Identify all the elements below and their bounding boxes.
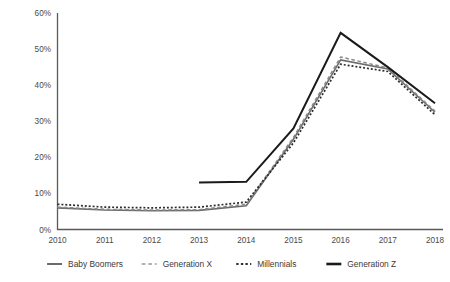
x-tick-label: 2018: [426, 236, 445, 245]
legend-label: Millennials: [257, 259, 296, 269]
x-tick-label: 2011: [96, 236, 114, 245]
series-line: [58, 60, 436, 211]
y-tick-label: 50%: [35, 45, 51, 54]
x-tick-label: 2014: [237, 236, 256, 245]
legend-label: Generation X: [163, 259, 213, 269]
y-tick-label: 40%: [35, 81, 51, 90]
line-chart: 0%10%20%30%40%50%60% 2010201120122013201…: [0, 0, 450, 282]
x-tick-label: 2012: [143, 236, 162, 245]
legend-label: Generation Z: [347, 259, 396, 269]
y-tick-label: 0%: [39, 226, 51, 235]
chart-legend: Baby BoomersGeneration XMillennialsGener…: [47, 259, 396, 269]
y-tick-label: 60%: [35, 9, 51, 18]
x-axis-tick-labels: 201020112012201320142015201620172018: [48, 236, 444, 245]
y-tick-label: 10%: [35, 189, 51, 198]
x-tick-label: 2015: [284, 236, 303, 245]
x-tick-label: 2016: [332, 236, 351, 245]
x-tick-label: 2013: [190, 236, 209, 245]
x-tick-label: 2017: [379, 236, 398, 245]
series-group: [58, 33, 436, 211]
series-line: [199, 33, 435, 183]
series-line: [58, 57, 436, 210]
y-tick-label: 30%: [35, 117, 51, 126]
y-axis-tick-labels: 0%10%20%30%40%50%60%: [35, 9, 51, 235]
series-line: [58, 64, 436, 208]
y-tick-label: 20%: [35, 153, 51, 162]
x-tick-label: 2010: [48, 236, 67, 245]
chart-canvas: 0%10%20%30%40%50%60% 2010201120122013201…: [0, 0, 450, 282]
legend-label: Baby Boomers: [68, 259, 123, 269]
